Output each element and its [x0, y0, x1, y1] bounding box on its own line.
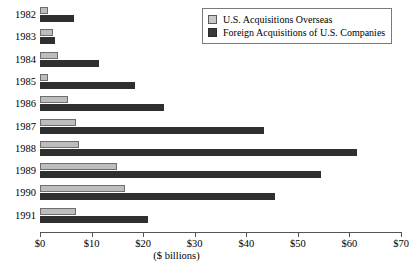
bar-1983-series-0 — [40, 29, 53, 36]
bar-1985-series-1 — [40, 82, 135, 89]
x-tick-70 — [401, 232, 402, 237]
bar-1988-series-1 — [40, 149, 357, 156]
bar-1984-series-0 — [40, 52, 58, 59]
bar-1991-series-1 — [40, 216, 148, 223]
bar-1989-series-1 — [40, 171, 321, 178]
bar-1985-series-0 — [40, 74, 48, 81]
legend-label-0: U.S. Acquisitions Overseas — [223, 14, 332, 25]
bar-1988-series-0 — [40, 141, 79, 148]
x-axis-line — [40, 232, 401, 233]
bar-1986-series-0 — [40, 96, 68, 103]
x-tick-40 — [246, 232, 247, 237]
chart-legend: U.S. Acquisitions Overseas Foreign Acqui… — [202, 8, 392, 44]
x-tick-50 — [298, 232, 299, 237]
legend-light-swatch-icon — [208, 15, 217, 24]
x-tick-20 — [143, 232, 144, 237]
y-axis-label-1985: 1985 — [0, 77, 36, 88]
x-tick-label-10: $10 — [72, 238, 112, 249]
x-tick-label-70: $70 — [381, 238, 411, 249]
y-axis-label-1991: 1991 — [0, 211, 36, 222]
bar-1982-series-1 — [40, 15, 74, 22]
bar-1990-series-1 — [40, 193, 275, 200]
x-tick-label-20: $20 — [123, 238, 163, 249]
bar-1987-series-0 — [40, 119, 76, 126]
bar-1991-series-0 — [40, 208, 76, 215]
legend-label-1: Foreign Acquisitions of U.S. Companies — [223, 27, 385, 38]
legend-dark-swatch-icon — [208, 28, 217, 37]
bar-1983-series-1 — [40, 37, 55, 44]
y-axis-label-1983: 1983 — [0, 32, 36, 43]
x-tick-60 — [349, 232, 350, 237]
legend-entry-foreign-acquisitions-of-us-companies: Foreign Acquisitions of U.S. Companies — [208, 26, 385, 39]
x-tick-10 — [92, 232, 93, 237]
bar-1982-series-0 — [40, 7, 48, 14]
y-axis-label-1990: 1990 — [0, 188, 36, 199]
x-tick-30 — [195, 232, 196, 237]
bar-chart: 1982198319841985198619871988198919901991… — [0, 0, 411, 266]
y-axis-label-1984: 1984 — [0, 55, 36, 66]
y-axis-label-1982: 1982 — [0, 10, 36, 21]
x-tick-0 — [40, 232, 41, 237]
y-axis-label-1988: 1988 — [0, 144, 36, 155]
x-tick-label-30: $30 — [175, 238, 215, 249]
bar-1984-series-1 — [40, 60, 99, 67]
y-axis-label-1989: 1989 — [0, 166, 36, 177]
x-tick-label-50: $50 — [278, 238, 318, 249]
bar-1989-series-0 — [40, 163, 117, 170]
bar-1990-series-0 — [40, 185, 125, 192]
bar-1987-series-1 — [40, 127, 264, 134]
bar-1986-series-1 — [40, 104, 164, 111]
x-tick-label-60: $60 — [329, 238, 369, 249]
x-axis-title: ($ billions) — [0, 250, 411, 261]
y-axis-label-1987: 1987 — [0, 122, 36, 133]
x-tick-label-0: $0 — [20, 238, 60, 249]
x-axis-title-text: ($ billions) — [153, 250, 199, 261]
x-tick-label-40: $40 — [226, 238, 266, 249]
legend-entry-us-acquisitions-overseas: U.S. Acquisitions Overseas — [208, 13, 385, 26]
y-axis-label-1986: 1986 — [0, 99, 36, 110]
